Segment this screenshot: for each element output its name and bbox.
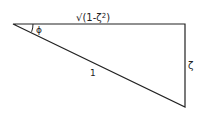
hypotenuse-label: 1 [90, 68, 96, 78]
top-side-label: √(1-ζ2) [76, 12, 110, 23]
angle-label: ϕ [36, 25, 42, 35]
angle-arc [32, 24, 33, 32]
right-side-label: ζ [188, 60, 193, 71]
triangle [13, 24, 185, 107]
triangle-diagram: √(1-ζ2) ϕ 1 ζ [0, 0, 201, 114]
